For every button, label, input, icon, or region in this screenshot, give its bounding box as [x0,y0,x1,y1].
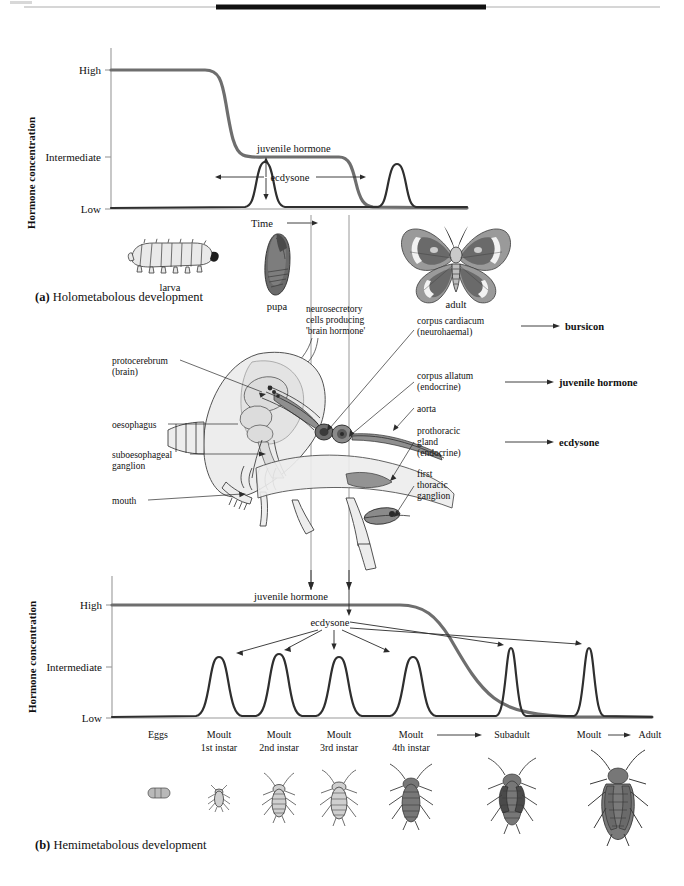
panel-b-chart: Hormone concentration High Intermediate … [0,570,684,870]
svg-text:suboesophageal: suboesophageal [112,450,173,460]
svg-text:oesophagus: oesophagus [112,420,157,430]
svg-text:(brain): (brain) [112,367,138,378]
panel-a-ecdysone-curve [111,162,467,208]
stage-4th-instar: 4th instar [392,742,430,753]
stage-3rd-instar: 3rd instar [320,742,359,753]
adult-cockroach-illustration [588,750,648,846]
stage-moult-final: Moult [577,729,602,740]
svg-text:'brain hormone': 'brain hormone' [306,326,365,336]
nymph-2nd-instar-illustration [262,773,296,823]
stage-moult-3: Moult [327,729,352,740]
svg-text:ganglion: ganglion [417,491,450,501]
svg-text:first: first [417,469,433,479]
hormone-bursicon: bursicon [565,321,604,332]
panel-b-caption: (b) Hemimetabolous development [35,838,207,853]
panel-b-ylabel: Hormone concentration [26,601,38,713]
panel-b-caption-text: Hemimetabolous development [53,838,206,852]
svg-text:aorta: aorta [417,404,437,414]
panel-a-ytick-low: Low [81,203,101,215]
panel-b-annotation-ecdysone: ecdysone [310,617,349,628]
nymph-4th-instar-illustration [389,764,433,830]
anatomy-label-corpus-allatum: corpus allatum (endocrine) juvenile horm… [349,371,638,437]
stage-2nd-instar: 2nd instar [259,742,299,753]
panel-b-ecdysone-curve [112,648,652,717]
panel-a-ytick-intermediate: Intermediate [45,151,101,163]
stage-eggs: Eggs [148,729,168,740]
hormone-ecdysone: ecdysone [559,437,600,448]
egg-illustration [148,788,170,798]
panel-b-juvenile-hormone-curve [112,605,652,717]
panel-a-juvenile-hormone-curve [111,70,467,208]
svg-text:(endocrine): (endocrine) [417,382,461,393]
figure-insect-hormones: Hormone concentration High Intermediate … [0,0,684,886]
panel-b-ytick-intermediate: Intermediate [46,661,102,673]
stage-moult-1: Moult [207,729,232,740]
svg-text:thoracic: thoracic [417,480,448,490]
stage-moult-4: Moult [399,729,424,740]
panel-b-ytick-high: High [80,599,103,611]
panel-a-annotation-ecdysone: ecdysone [270,172,309,183]
panel-anatomy: neurosecretory cells producing 'brain ho… [0,300,684,580]
nymph-3rd-instar-illustration [320,770,358,826]
panel-b-ecdysone-arrows [236,622,582,656]
insect-head-drawing [168,352,454,570]
panel-b-caption-marker: (b) [35,838,53,852]
svg-text:mouth: mouth [112,496,137,506]
svg-text:cells producing: cells producing [306,315,365,325]
stage-1st-instar: 1st instar [201,742,238,753]
scan-edge-artifact [0,0,684,14]
panel-a-annotation-juvenile-hormone: juvenile hormone [256,143,331,154]
subadult-illustration [487,758,537,834]
panel-b-annotation-juvenile-hormone: juvenile hormone [253,591,328,602]
panel-a-ylabel: Hormone concentration [25,117,37,229]
hormone-juvenile-hormone: juvenile hormone [558,377,638,388]
svg-text:neurosecretory: neurosecretory [306,304,363,314]
svg-text:ganglion: ganglion [112,461,145,471]
panel-b-stage-labels: Eggs Moult 1st instar Moult 2nd instar M… [148,729,662,753]
svg-text:prothoracic: prothoracic [417,426,460,436]
svg-text:gland: gland [417,437,438,447]
svg-text:corpus allatum: corpus allatum [417,371,474,381]
panel-a-ytick-high: High [79,64,102,76]
nymph-1st-instar-illustration [208,785,230,812]
svg-text:corpus cardiacum: corpus cardiacum [417,316,485,326]
stage-moult-2: Moult [267,729,292,740]
svg-text:protocerebrum: protocerebrum [112,356,169,366]
panel-b-ytick-low: Low [82,712,102,724]
stage-adult: Adult [639,729,662,740]
svg-text:(neurohaemal): (neurohaemal) [417,327,472,338]
stage-subadult: Subadult [494,729,530,740]
svg-text:(endocrine): (endocrine) [417,448,461,459]
hemimetabolous-specimen-row [148,750,648,846]
